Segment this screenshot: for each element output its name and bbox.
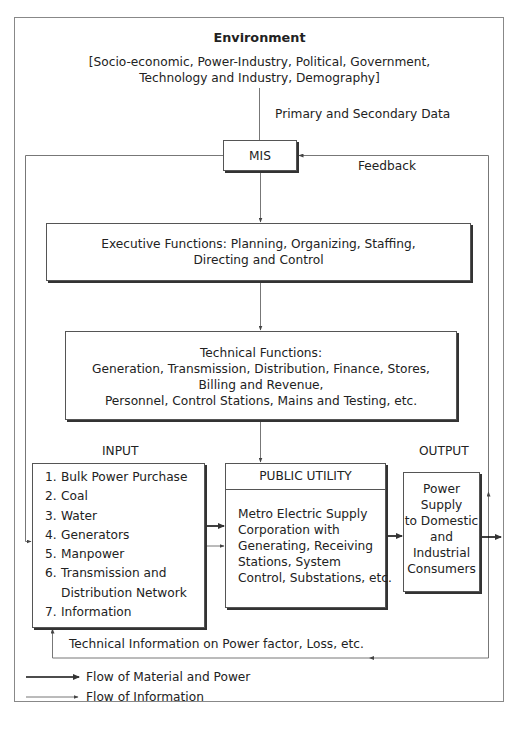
output-label: OUTPUT bbox=[419, 443, 469, 459]
public-utility-line5: Control, Substations, etc. bbox=[238, 570, 385, 586]
mis-label: MIS bbox=[249, 148, 271, 164]
technical-functions-line4: Personnel, Control Stations, Mains and T… bbox=[66, 393, 456, 409]
technical-functions-line2: Generation, Transmission, Distribution, … bbox=[66, 361, 456, 377]
public-utility-box: PUBLIC UTILITY Metro Electric Supply Cor… bbox=[225, 463, 386, 608]
input-item: 7. Information bbox=[45, 603, 204, 622]
input-item: 1. Bulk Power Purchase bbox=[45, 468, 204, 487]
output-line1: Power bbox=[404, 481, 479, 497]
input-item: 5. Manpower bbox=[45, 545, 204, 564]
public-utility-line1: Metro Electric Supply bbox=[238, 506, 385, 522]
output-line4: and bbox=[404, 529, 479, 545]
technical-information-label: Technical Information on Power factor, L… bbox=[69, 636, 364, 652]
environment-factors-line2: Technology and Industry, Demography] bbox=[0, 70, 519, 86]
output-line2: Supply bbox=[404, 497, 479, 513]
input-label: INPUT bbox=[102, 443, 138, 459]
technical-functions-line1: Technical Functions: bbox=[66, 345, 456, 361]
executive-functions-line2: Directing and Control bbox=[47, 252, 470, 268]
legend-material-label: Flow of Material and Power bbox=[86, 669, 250, 685]
input-item: 3. Water bbox=[45, 507, 204, 526]
environment-factors-line1: [Socio-economic, Power-Industry, Politic… bbox=[0, 54, 519, 70]
public-utility-line2: Corporation with bbox=[238, 522, 385, 538]
public-utility-line3: Generating, Receiving bbox=[238, 538, 385, 554]
technical-functions-line3: Billing and Revenue, bbox=[66, 377, 456, 393]
input-box: 1. Bulk Power Purchase 2. Coal 3. Water … bbox=[32, 463, 205, 628]
mis-box: MIS bbox=[223, 140, 297, 171]
input-item-continuation: Distribution Network bbox=[45, 584, 204, 603]
public-utility-line4: Stations, System bbox=[238, 554, 385, 570]
output-line6: Consumers bbox=[404, 561, 479, 577]
technical-functions-box: Technical Functions: Generation, Transmi… bbox=[65, 331, 457, 420]
public-utility-title: PUBLIC UTILITY bbox=[226, 464, 385, 490]
feedback-label: Feedback bbox=[358, 158, 416, 174]
executive-functions-box: Executive Functions: Planning, Organizin… bbox=[46, 223, 471, 281]
output-line5: Industrial bbox=[404, 545, 479, 561]
primary-secondary-data-label: Primary and Secondary Data bbox=[275, 106, 450, 122]
environment-title: Environment bbox=[0, 30, 519, 46]
legend-information-label: Flow of Information bbox=[86, 689, 204, 705]
input-item: 6. Transmission and bbox=[45, 564, 204, 583]
output-box: Power Supply to Domestic and Industrial … bbox=[403, 472, 480, 592]
output-line3: to Domestic bbox=[404, 513, 479, 529]
input-item: 2. Coal bbox=[45, 487, 204, 506]
input-item: 4. Generators bbox=[45, 526, 204, 545]
executive-functions-line1: Executive Functions: Planning, Organizin… bbox=[47, 236, 470, 252]
